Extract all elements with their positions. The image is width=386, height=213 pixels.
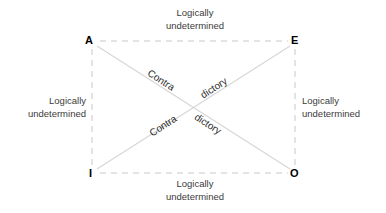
square-of-opposition-diagram: A E I O Logically undetermined Logically… <box>0 0 386 213</box>
edge-label-bottom: Logically undetermined <box>143 177 247 203</box>
edge-label-bottom-line2: undetermined <box>143 190 247 203</box>
edge-label-left-line2: undetermined <box>0 107 86 120</box>
vertex-label-a: A <box>85 35 93 46</box>
edge-label-top-line1: Logically <box>143 6 247 19</box>
edge-label-top: Logically undetermined <box>143 6 247 32</box>
vertex-label-i: I <box>89 168 92 179</box>
edge-label-right: Logically undetermined <box>302 94 386 120</box>
edge-label-top-line2: undetermined <box>143 19 247 32</box>
edge-label-right-line2: undetermined <box>302 107 386 120</box>
vertex-label-o: O <box>290 168 299 179</box>
edge-label-left-line1: Logically <box>0 94 86 107</box>
edge-label-left: Logically undetermined <box>0 94 86 120</box>
vertex-label-e: E <box>291 35 298 46</box>
edge-label-right-line1: Logically <box>302 94 386 107</box>
edge-label-bottom-line1: Logically <box>143 177 247 190</box>
